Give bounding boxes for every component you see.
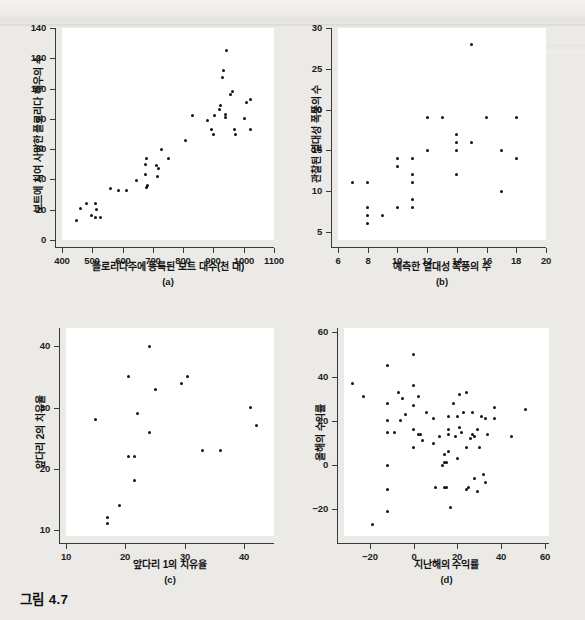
y-axis-tick: [54, 469, 59, 470]
y-axis-tick-label: 140: [10, 22, 46, 33]
y-axis-tick: [326, 28, 331, 29]
data-point: [245, 101, 248, 104]
y-axis-tick: [50, 210, 55, 211]
y-axis-tick-label: 10: [14, 524, 50, 535]
x-axis-tick: [397, 248, 398, 253]
x-axis-tick: [125, 544, 126, 549]
y-axis-tick: [332, 421, 337, 422]
x-axis-line: [59, 543, 274, 544]
data-point: [441, 116, 444, 119]
y-axis-tick: [54, 530, 59, 531]
y-axis-title: 올해의 수익률: [312, 404, 327, 461]
y-axis-tick: [332, 465, 337, 466]
y-axis-tick: [50, 240, 55, 241]
data-point: [118, 504, 121, 507]
x-axis-title: 예측한 열대성 폭풍의 수: [298, 258, 585, 273]
x-axis-tick: [368, 248, 369, 253]
y-axis-tick-label: 40: [14, 340, 50, 351]
y-axis-tick: [326, 150, 331, 151]
data-point: [219, 449, 222, 452]
data-point: [167, 157, 170, 160]
data-point: [233, 128, 236, 131]
x-axis-line: [337, 543, 549, 544]
y-axis-tick-label: −20: [292, 503, 328, 514]
x-axis-tick: [274, 248, 275, 253]
data-point: [386, 402, 389, 405]
data-point: [465, 446, 468, 449]
data-point: [470, 141, 473, 144]
x-axis-tick: [370, 544, 371, 549]
y-axis-tick-label: 25: [286, 63, 322, 74]
data-point: [249, 98, 252, 101]
y-axis-tick-label: 30: [286, 22, 322, 33]
x-axis-tick: [213, 248, 214, 253]
y-axis-tick-label: 0: [10, 234, 46, 245]
x-axis-title: 지난해의 수익률: [304, 556, 585, 571]
panel-letter: (c): [26, 574, 314, 585]
y-axis-tick: [50, 89, 55, 90]
data-point: [249, 128, 252, 131]
data-point: [411, 157, 414, 160]
data-point: [386, 431, 389, 434]
data-point: [95, 208, 98, 211]
panel-letter: (b): [298, 276, 585, 287]
data-point: [478, 446, 481, 449]
data-point: [452, 402, 455, 405]
x-axis-tick: [545, 544, 546, 549]
plot-area-d: [344, 328, 549, 536]
data-point: [133, 455, 136, 458]
data-point: [515, 157, 518, 160]
data-point: [500, 149, 503, 152]
x-axis-tick: [62, 248, 63, 253]
data-point: [117, 189, 120, 192]
y-axis-title: 관찰된 열대성 폭풍의 수: [308, 85, 323, 183]
x-axis-tick: [123, 248, 124, 253]
y-axis-tick: [54, 408, 59, 409]
y-axis-tick-label: 60: [292, 326, 328, 337]
data-point: [454, 435, 457, 438]
y-axis-title: 앞다리 2의 치유율: [32, 395, 47, 469]
x-axis-tick: [153, 248, 154, 253]
x-axis-tick: [66, 544, 67, 549]
data-point: [443, 453, 446, 456]
y-axis-tick: [50, 28, 55, 29]
y-axis-tick: [50, 58, 55, 59]
data-point: [229, 93, 232, 96]
x-axis-line: [55, 247, 274, 248]
data-point: [445, 486, 448, 489]
data-point: [456, 457, 459, 460]
x-axis-tick: [457, 544, 458, 549]
x-axis-title: 플로리다주에 등록된 보트 대수(천 대): [22, 258, 314, 273]
data-point: [471, 411, 474, 414]
data-point: [465, 391, 468, 394]
data-point: [417, 395, 420, 398]
x-axis-tick: [546, 248, 547, 253]
data-point: [456, 415, 459, 418]
data-point: [404, 413, 407, 416]
data-point: [434, 486, 437, 489]
data-point: [109, 187, 112, 190]
data-point: [467, 486, 470, 489]
y-axis-tick: [326, 110, 331, 111]
data-point: [447, 433, 450, 436]
x-axis-title: 앞다리 1의 치유율: [26, 556, 314, 571]
x-axis-tick: [414, 544, 415, 549]
data-point: [426, 116, 429, 119]
data-point: [125, 189, 128, 192]
x-axis-line: [331, 247, 546, 248]
y-axis-tick: [50, 149, 55, 150]
data-point: [458, 393, 461, 396]
data-point: [127, 455, 130, 458]
data-point: [500, 190, 503, 193]
data-point: [426, 149, 429, 152]
y-axis-tick: [50, 179, 55, 180]
data-point: [234, 133, 237, 136]
data-point: [145, 186, 148, 189]
y-axis-tick-label: 5: [286, 226, 322, 237]
data-point: [396, 157, 399, 160]
y-axis-tick: [54, 346, 59, 347]
data-point: [476, 428, 479, 431]
data-point: [231, 90, 234, 93]
y-axis-line: [331, 28, 332, 247]
y-axis-line: [59, 328, 60, 543]
